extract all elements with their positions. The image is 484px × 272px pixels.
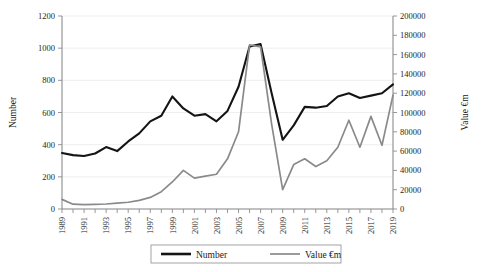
chart-root: 0200400600800100012000200004000060000800… (0, 0, 484, 272)
x-axis-tick-label: 1991 (79, 217, 89, 234)
y-axis-right-tick-label: 120000 (400, 88, 426, 98)
legend-label: Number (196, 250, 228, 260)
y-axis-right-tick-label: 20000 (400, 185, 421, 195)
y-axis-left-tick-label: 0 (51, 204, 55, 214)
x-axis-tick-label: 1997 (145, 217, 155, 234)
y-axis-left-title: Number (8, 96, 18, 128)
y-axis-left-tick-label: 200 (42, 172, 55, 182)
y-axis-right-title: Value €m (460, 94, 470, 131)
line-chart: 0200400600800100012000200004000060000800… (0, 0, 484, 272)
series-line-number (62, 44, 393, 156)
x-axis-tick-label: 2007 (256, 217, 266, 234)
y-axis-right-tick-label: 160000 (400, 50, 426, 60)
x-axis-tick-label: 2003 (212, 217, 222, 234)
x-axis-tick-label: 2019 (388, 217, 398, 234)
x-axis-tick-label: 2001 (190, 217, 200, 234)
x-axis-tick-label: 2005 (234, 217, 244, 234)
y-axis-right-tick-label: 60000 (400, 146, 421, 156)
x-axis-tick-label: 1995 (123, 217, 133, 234)
x-axis-tick-label: 2015 (344, 217, 354, 234)
x-axis-tick-label: 2011 (300, 217, 310, 234)
series-line-value (62, 45, 393, 205)
x-axis-tick-label: 1999 (168, 217, 178, 234)
x-axis-tick-label: 1993 (101, 217, 111, 234)
y-axis-right-tick-label: 40000 (400, 165, 421, 175)
y-axis-right-tick-label: 100000 (400, 108, 426, 118)
y-axis-right-tick-label: 200000 (400, 11, 426, 21)
y-axis-right-tick-label: 140000 (400, 69, 426, 79)
y-axis-right-tick-label: 0 (400, 204, 404, 214)
legend-label: Value €m (305, 250, 342, 260)
x-axis-tick-label: 2009 (278, 217, 288, 234)
x-axis-tick-label: 1989 (57, 217, 67, 234)
y-axis-left-tick-label: 600 (42, 108, 55, 118)
y-axis-left-tick-label: 400 (42, 140, 55, 150)
y-axis-right-tick-label: 80000 (400, 127, 421, 137)
y-axis-left-tick-label: 1000 (38, 43, 55, 53)
y-axis-right-tick-label: 180000 (400, 30, 426, 40)
x-axis-tick-label: 2013 (322, 217, 332, 234)
x-axis-tick-label: 2017 (366, 217, 376, 234)
y-axis-left-tick-label: 1200 (38, 11, 55, 21)
y-axis-left-tick-label: 800 (42, 75, 55, 85)
